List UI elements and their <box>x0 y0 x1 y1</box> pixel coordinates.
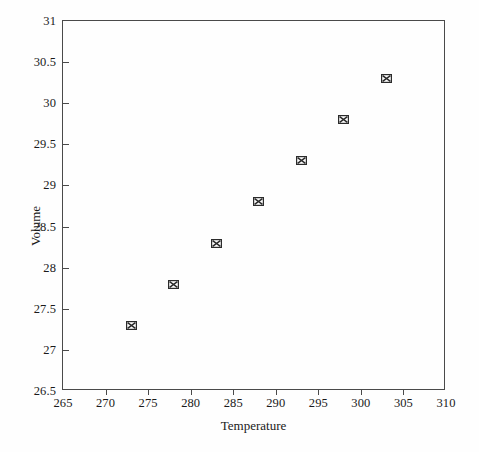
x-tick-mark <box>233 389 234 395</box>
data-point-marker <box>381 74 392 83</box>
x-tick-mark <box>148 389 149 395</box>
y-tick-label: 30 <box>43 96 56 111</box>
x-tick-mark <box>403 389 404 395</box>
x-tick-label: 280 <box>181 396 200 411</box>
data-point-marker <box>296 156 307 165</box>
x-tick-label: 285 <box>224 396 243 411</box>
data-point-marker <box>126 321 137 330</box>
x-tick-mark <box>361 389 362 395</box>
y-tick-label: 29 <box>43 178 56 193</box>
x-tick-label: 290 <box>266 396 285 411</box>
data-point-marker <box>168 280 179 289</box>
x-tick-mark <box>276 389 277 395</box>
x-tick-label: 295 <box>309 396 328 411</box>
data-point-marker <box>253 197 264 206</box>
y-tick-label: 29.5 <box>34 137 56 152</box>
x-axis-title: Temperature <box>62 418 445 434</box>
x-tick-mark <box>106 389 107 395</box>
data-point-marker <box>211 239 222 248</box>
x-tick-mark <box>191 389 192 395</box>
data-point-marker <box>338 115 349 124</box>
y-tick-label: 31 <box>43 14 56 29</box>
plot-frame: 26.52727.52828.52929.53030.531 265270275… <box>62 20 445 390</box>
x-tick-label: 305 <box>394 396 413 411</box>
x-tick-label: 270 <box>96 396 115 411</box>
x-tick-label: 275 <box>139 396 158 411</box>
x-tick-label: 265 <box>53 396 72 411</box>
x-tick-label: 310 <box>436 396 455 411</box>
x-tick-label: 300 <box>351 396 370 411</box>
y-tick-label: 28.5 <box>34 219 56 234</box>
y-tick-label: 28 <box>43 260 56 275</box>
y-tick-label: 27 <box>43 342 56 357</box>
y-tick-label: 30.5 <box>34 55 56 70</box>
scatter-plot-figure: Volume 26.52727.52828.52929.53030.531 26… <box>0 0 479 452</box>
plot-data-area <box>63 21 444 389</box>
y-tick-label: 27.5 <box>34 301 56 316</box>
x-tick-mark <box>318 389 319 395</box>
